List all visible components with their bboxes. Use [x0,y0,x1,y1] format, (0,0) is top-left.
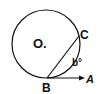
label-point-c: C [80,28,89,42]
label-point-a: A [85,73,94,85]
diagram-canvas: O. C B A b° [0,0,98,94]
arrowhead-icon [79,76,85,81]
label-angle-b: b° [72,57,82,68]
label-center-o: O. [33,36,47,51]
label-point-b: B [42,81,51,94]
